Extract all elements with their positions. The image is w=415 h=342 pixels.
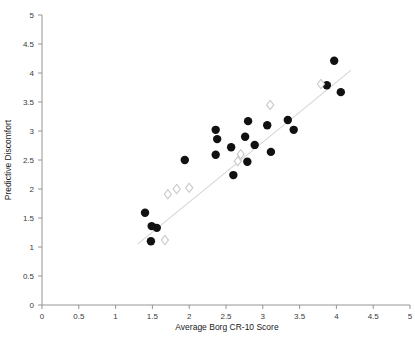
scatter-chart: 00.511.522.533.544.55 00.511.522.533.544… xyxy=(0,0,415,342)
x-tick-label: 4 xyxy=(334,312,339,321)
y-tick-label: 2.5 xyxy=(23,156,35,165)
data-point-filled xyxy=(330,57,338,65)
data-point-filled xyxy=(290,126,298,134)
data-point-filled xyxy=(251,141,259,149)
data-point-filled xyxy=(181,156,189,164)
x-tick-label: 3 xyxy=(261,312,266,321)
data-point-filled xyxy=(153,224,161,232)
data-point-open-diamond xyxy=(267,100,274,109)
x-tick-label: 0.5 xyxy=(73,312,85,321)
x-tick-label: 4.5 xyxy=(368,312,380,321)
y-tick-label: 1.5 xyxy=(23,214,35,223)
trend-line-group xyxy=(138,70,351,244)
y-tick-label: 4 xyxy=(30,69,35,78)
y-tick-label: 0 xyxy=(30,301,35,310)
data-point-filled xyxy=(241,133,249,141)
data-point-filled xyxy=(263,121,271,129)
data-point-filled xyxy=(211,151,219,159)
x-axis-title: Average Borg CR-10 Score xyxy=(175,322,279,332)
data-point-filled xyxy=(229,171,237,179)
y-tick-label: 0.5 xyxy=(23,272,35,281)
x-tick-label: 2 xyxy=(187,312,192,321)
x-tick-labels: 00.511.522.533.544.55 xyxy=(40,305,413,321)
data-point-filled xyxy=(337,88,345,96)
x-tick-label: 3.5 xyxy=(294,312,306,321)
x-tick-label: 2.5 xyxy=(220,312,232,321)
axes-group xyxy=(42,15,410,305)
data-point-open-diamond xyxy=(173,184,180,193)
data-point-filled xyxy=(267,148,275,156)
x-tick-label: 0 xyxy=(40,312,45,321)
data-point-filled xyxy=(211,126,219,134)
y-tick-label: 1 xyxy=(30,243,35,252)
data-point-filled xyxy=(244,117,252,125)
data-point-open-diamond xyxy=(186,183,193,192)
y-tick-label: 3 xyxy=(30,127,35,136)
y-tick-labels: 00.511.522.533.544.55 xyxy=(23,11,42,310)
y-tick-label: 3.5 xyxy=(23,98,35,107)
plot-area: 00.511.522.533.544.55 00.511.522.533.544… xyxy=(0,0,415,342)
data-point-filled xyxy=(284,116,292,124)
trend-line xyxy=(138,70,351,244)
data-point-filled xyxy=(243,158,251,166)
data-point-filled xyxy=(147,237,155,245)
y-axis-title: Predictive Discomfort xyxy=(3,119,13,200)
data-point-filled xyxy=(227,143,235,151)
data-point-open-diamond xyxy=(164,190,171,199)
data-point-filled xyxy=(213,135,221,143)
x-tick-label: 1 xyxy=(113,312,118,321)
data-point-filled xyxy=(141,209,149,217)
y-tick-label: 2 xyxy=(30,185,35,194)
x-tick-label: 5 xyxy=(408,312,413,321)
x-tick-label: 1.5 xyxy=(147,312,159,321)
y-tick-label: 5 xyxy=(30,11,35,20)
data-point-open-diamond xyxy=(161,235,168,244)
y-tick-label: 4.5 xyxy=(23,40,35,49)
